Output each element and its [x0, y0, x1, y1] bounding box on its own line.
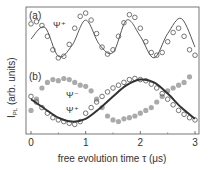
data-point [50, 77, 55, 82]
data-point [176, 83, 181, 88]
data-point [176, 26, 181, 31]
data-point [72, 122, 77, 127]
data-point [72, 26, 77, 31]
data-point [105, 90, 110, 95]
data-point [100, 94, 105, 99]
data-point [89, 105, 94, 110]
data-point [67, 77, 72, 82]
data-point [89, 18, 94, 23]
data-point [45, 80, 50, 85]
panel-b [28, 74, 197, 126]
data-point [171, 103, 176, 108]
x-tick-label: 0 [28, 137, 34, 148]
data-point [127, 77, 132, 82]
data-point [138, 111, 143, 116]
data-point [122, 80, 127, 85]
psi-minus-annotation-b: Ψ⁻ [66, 90, 79, 100]
data-point [29, 22, 34, 27]
data-point [83, 11, 88, 16]
data-point [176, 108, 181, 113]
data-point [29, 94, 34, 99]
data-point [72, 80, 77, 85]
panel-b-label: (b) [29, 71, 41, 82]
chart-figure: 0123 free evolution time τ (μs) IPL (arb… [0, 0, 210, 170]
data-point [181, 80, 186, 85]
data-point [89, 88, 94, 93]
data-point [127, 12, 132, 17]
data-point [187, 48, 192, 53]
data-point [165, 39, 170, 44]
psi-plus-annotation-a: Ψ⁺ [53, 20, 66, 30]
data-point [127, 115, 132, 120]
data-point [182, 34, 187, 39]
data-point [83, 84, 88, 89]
data-point [121, 116, 126, 121]
data-point [78, 14, 83, 19]
panel-a [29, 11, 198, 60]
x-axis-ticks [31, 131, 195, 134]
data-point [116, 119, 121, 124]
panel-a-label: (a) [29, 10, 41, 21]
data-point [149, 105, 154, 110]
data-point [111, 86, 116, 91]
data-point [133, 15, 138, 20]
data-point [28, 108, 33, 113]
data-point [116, 83, 121, 88]
data-point [187, 74, 192, 79]
x-axis-tick-labels: 0123 [28, 137, 198, 148]
x-tick-label: 2 [138, 137, 144, 148]
x-tick-label: 1 [83, 137, 89, 148]
data-point [39, 85, 44, 90]
data-point [61, 76, 66, 81]
data-point [171, 30, 176, 35]
data-point [171, 85, 176, 90]
data-point [160, 50, 165, 55]
data-point [67, 42, 72, 47]
data-point [182, 112, 187, 117]
data-point [193, 53, 198, 58]
data-point [138, 26, 143, 31]
data-point [110, 117, 115, 122]
x-axis-label: free evolution time τ (μs) [58, 153, 167, 164]
psi-plus-annotation-b: Ψ⁺ [66, 105, 79, 115]
y-axis-label: IPL (arb. units) [6, 57, 18, 118]
data-point [83, 111, 88, 116]
data-point [165, 97, 170, 102]
data-point [78, 83, 83, 88]
data-point [56, 78, 61, 83]
data-point [132, 113, 137, 118]
data-point [143, 108, 148, 113]
data-point [105, 113, 110, 118]
x-tick-label: 3 [192, 137, 198, 148]
data-point [154, 99, 159, 104]
